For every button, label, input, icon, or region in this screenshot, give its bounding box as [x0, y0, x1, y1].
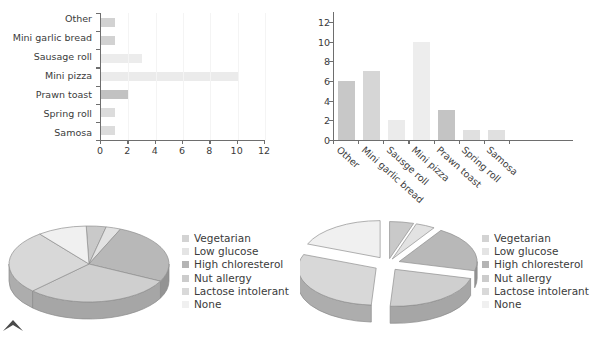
vertical-bar-column [434, 12, 459, 140]
horizontal-bar-category-label: Samosa [0, 128, 96, 138]
legend-label: Nut allergy [494, 272, 552, 285]
horizontal-bar-item [101, 108, 115, 117]
grid-line [128, 13, 129, 140]
legend-label: None [494, 298, 521, 311]
horizontal-bar-plot-area [100, 13, 264, 140]
legend-item: Nut allergy [182, 272, 289, 285]
legend-label: None [194, 298, 221, 311]
x-tick-label: 2 [124, 145, 130, 156]
horizontal-bar-category-label: Sausage roll [0, 52, 96, 62]
legend-label: Low glucose [194, 245, 258, 258]
vertical-bar-item [388, 120, 405, 140]
legend-swatch [182, 261, 189, 268]
pie-chart-left: VegetarianLow glucoseHigh chloresterolNu… [4, 214, 296, 337]
legend-label: Nut allergy [194, 272, 252, 285]
caret-up-icon [2, 315, 26, 333]
legend-label: Vegetarian [494, 232, 551, 245]
grid-line [183, 13, 184, 140]
vertical-bar-item [438, 110, 455, 140]
legend-swatch [182, 248, 189, 255]
tick-mark [127, 140, 128, 144]
legend-item: High chloresterol [482, 258, 589, 271]
legend-swatch [482, 261, 489, 268]
pie-left-graphic [4, 214, 179, 326]
vertical-bar-series [334, 12, 509, 140]
legend-item: Lactose intolerant [182, 285, 289, 298]
vertical-bar-column [359, 12, 384, 140]
tick-mark [155, 140, 156, 144]
vertical-bar-item [363, 71, 380, 140]
legend-label: Lactose intolerant [194, 285, 289, 298]
pie-right-graphic [300, 214, 480, 326]
grid-line [210, 13, 211, 140]
legend-item: Low glucose [182, 245, 289, 258]
horizontal-bar-category-label: Mini pizza [0, 71, 96, 81]
legend-swatch [482, 275, 489, 282]
vertical-bar-item [413, 42, 430, 140]
grid-line [238, 13, 239, 140]
horizontal-bar-item [101, 36, 115, 45]
vertical-bar-column [409, 12, 434, 140]
legend-label: Low glucose [494, 245, 558, 258]
vertical-bar-y-tick-labels: 024681012 [308, 12, 330, 140]
vertical-bar-column [384, 12, 409, 140]
horizontal-bar-category-label: Prawn toast [0, 90, 96, 100]
tick-mark [264, 140, 265, 144]
vertical-bar-plot-area [333, 12, 509, 140]
horizontal-bar-chart: OtherMini garlic breadSausage rollMini p… [0, 4, 292, 154]
legend-item: None [482, 298, 589, 311]
horizontal-bar-item [101, 18, 115, 27]
legend-item: Low glucose [482, 245, 589, 258]
tick-mark [237, 140, 238, 144]
horizontal-bar-category-labels: OtherMini garlic breadSausage rollMini p… [0, 14, 96, 138]
pie-chart-right: VegetarianLow glucoseHigh chloresterolNu… [300, 214, 590, 337]
pie-right-legend: VegetarianLow glucoseHigh chloresterolNu… [482, 232, 589, 311]
legend-item: High chloresterol [182, 258, 289, 271]
legend-swatch [482, 248, 489, 255]
vertical-bar-item [488, 130, 505, 140]
horizontal-bar-x-tick-labels: 024681012 [100, 145, 264, 159]
legend-label: Vegetarian [194, 232, 251, 245]
horizontal-bar-category-label: Spring roll [0, 109, 96, 119]
horizontal-bar-item [101, 126, 115, 135]
vertical-bar-item [338, 81, 355, 140]
horizontal-bar-item [101, 72, 238, 81]
legend-swatch [482, 288, 489, 295]
tick-mark [209, 140, 210, 144]
legend-item: Vegetarian [482, 232, 589, 245]
legend-label: High chloresterol [494, 258, 583, 271]
horizontal-bar-category-label: Mini garlic bread [0, 33, 96, 43]
legend-item: Vegetarian [182, 232, 289, 245]
legend-swatch [482, 301, 489, 308]
legend-swatch [182, 235, 189, 242]
x-tick-label: 6 [179, 145, 185, 156]
vertical-bar-column [459, 12, 484, 140]
legend-item: Lactose intolerant [482, 285, 589, 298]
vertical-bar-column [334, 12, 359, 140]
tick-mark [182, 140, 183, 144]
tick-mark [100, 140, 101, 144]
legend-item: Nut allergy [482, 272, 589, 285]
pie-slice [308, 221, 381, 258]
legend-label: High chloresterol [194, 258, 283, 271]
legend-swatch [182, 288, 189, 295]
vertical-bar-item [463, 130, 480, 140]
x-tick-label: Other [334, 144, 361, 170]
x-tick-label: 10 [231, 145, 243, 156]
x-tick-label: 4 [152, 145, 158, 156]
chart-sheet: OtherMini garlic breadSausage rollMini p… [0, 0, 590, 337]
vertical-bar-column [484, 12, 509, 140]
horizontal-bar-item [101, 90, 128, 99]
grid-line [156, 13, 157, 140]
x-tick-label: 0 [97, 145, 103, 156]
legend-swatch [182, 301, 189, 308]
x-tick-label: 8 [206, 145, 212, 156]
pie-left-legend: VegetarianLow glucoseHigh chloresterolNu… [182, 232, 289, 311]
legend-swatch [182, 275, 189, 282]
x-tick-label: 12 [258, 145, 270, 156]
legend-label: Lactose intolerant [494, 285, 589, 298]
horizontal-bar-category-label: Other [0, 14, 96, 24]
vertical-bar-chart: 024681012 OtherMini garlic breadSausge r… [300, 4, 590, 204]
legend-item: None [182, 298, 289, 311]
horizontal-bar-item [101, 54, 142, 63]
